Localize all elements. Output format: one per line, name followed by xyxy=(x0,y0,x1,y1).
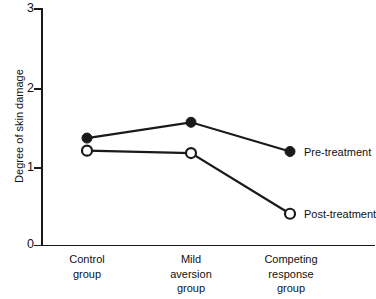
series-line-post-treatment xyxy=(87,151,290,214)
series-label-pre-treatment: Pre-treatment xyxy=(304,146,371,158)
x-category-label-line: Mild xyxy=(136,252,246,267)
x-category-label-line: group xyxy=(136,281,246,296)
series-markers-post-treatment xyxy=(82,146,295,219)
x-category-label-line: group xyxy=(32,267,142,282)
series-label-post-treatment: Post-treatment xyxy=(304,208,376,220)
x-category-label-competing-response-group: Competingresponsegroup xyxy=(236,252,346,296)
data-point xyxy=(186,148,196,158)
chart-figure: Degree of skin damage 3 2 1 0 Pre-treatm… xyxy=(0,0,376,299)
x-category-label-control-group: Controlgroup xyxy=(32,252,142,281)
x-category-label-line: Competing xyxy=(236,252,346,267)
data-point xyxy=(186,117,196,127)
data-point xyxy=(82,133,92,143)
x-category-label-line: group xyxy=(236,281,346,296)
x-category-label-mild-aversion-group: Mildaversiongroup xyxy=(136,252,246,296)
x-category-label-line: response xyxy=(236,267,346,282)
x-category-label-line: aversion xyxy=(136,267,246,282)
x-category-label-line: Control xyxy=(32,252,142,267)
data-point xyxy=(285,146,295,156)
data-point xyxy=(285,209,295,219)
data-point xyxy=(82,146,92,156)
